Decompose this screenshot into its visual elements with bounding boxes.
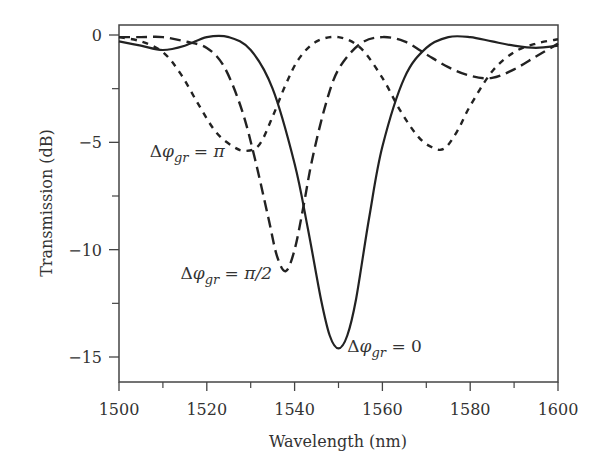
annotation-pi-half: Δφgr = π/2 xyxy=(180,263,272,287)
y-axis-label: Transmission (dB) xyxy=(37,129,56,277)
x-tick-label: 1540 xyxy=(274,400,315,419)
y-tick-label: 0 xyxy=(92,26,102,45)
x-tick-label: 1500 xyxy=(99,400,140,419)
y-tick-label: −5 xyxy=(78,133,102,152)
x-tick-label: 1580 xyxy=(450,400,491,419)
x-tick-label: 1600 xyxy=(538,400,579,419)
x-tick-label: 1520 xyxy=(186,400,227,419)
annotation-zero: Δφgr = 0 xyxy=(347,336,422,360)
x-tick-label: 1560 xyxy=(362,400,403,419)
y-tick-label: −15 xyxy=(68,348,102,367)
chart: 1500152015401560158016000−5−10−15 Δφgr =… xyxy=(0,0,605,474)
x-axis-label: Wavelength (nm) xyxy=(269,432,407,451)
annotation-pi: Δφgr = π xyxy=(150,141,226,165)
series-line-phi-pi xyxy=(119,37,558,151)
y-tick-label: −10 xyxy=(68,241,102,260)
